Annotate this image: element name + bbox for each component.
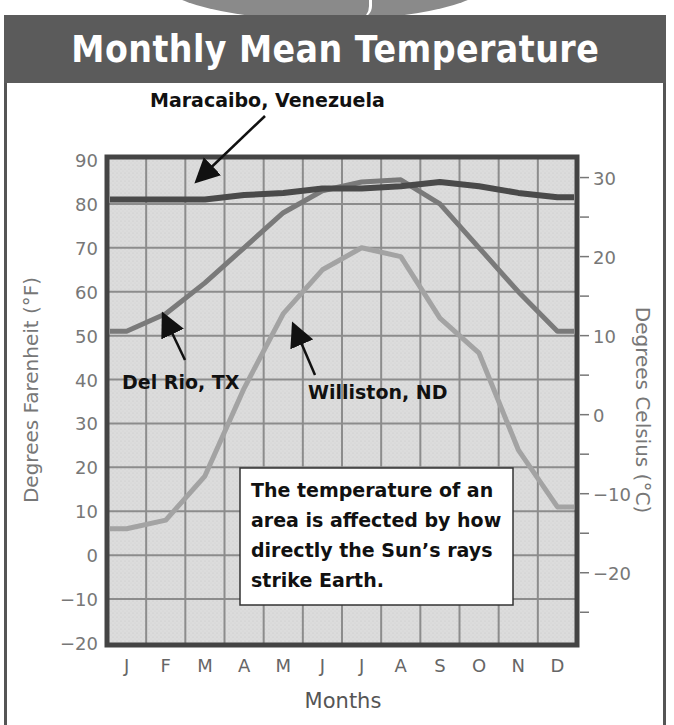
y-tick-left: 80 bbox=[75, 194, 98, 215]
y-tick-left: 30 bbox=[75, 413, 98, 434]
y-tick-left: −20 bbox=[60, 633, 98, 654]
callout-line-4: strike Earth. bbox=[251, 569, 384, 591]
y-tick-left: 0 bbox=[87, 545, 98, 566]
label-del-rio: Del Rio, TX bbox=[122, 371, 240, 393]
x-tick-month: M bbox=[275, 655, 291, 676]
y-tick-right: −20 bbox=[593, 563, 631, 584]
x-tick-month: J bbox=[123, 655, 129, 676]
callout-line-1: The temperature of an bbox=[251, 479, 493, 501]
y-axis-right-ticks: 3020100−10−20 bbox=[580, 168, 631, 613]
y-axis-left-ticks: 9080706050403020100−10−20 bbox=[60, 150, 98, 654]
x-tick-month: J bbox=[358, 655, 364, 676]
y-tick-left: 60 bbox=[75, 282, 98, 303]
x-tick-month: N bbox=[512, 655, 525, 676]
y-tick-right: 30 bbox=[593, 168, 616, 189]
y-tick-left: 10 bbox=[75, 501, 98, 522]
y-tick-left: −10 bbox=[60, 589, 98, 610]
x-tick-month: A bbox=[395, 655, 408, 676]
y-tick-right: 0 bbox=[593, 405, 604, 426]
y-tick-left: 40 bbox=[75, 370, 98, 391]
y-tick-left: 20 bbox=[75, 457, 98, 478]
y-tick-right: −10 bbox=[593, 484, 631, 505]
x-tick-month: O bbox=[472, 655, 486, 676]
x-axis-ticks: JFMAMJJASOND bbox=[123, 655, 564, 676]
callout-line-2: area is affected by how bbox=[251, 509, 501, 531]
x-tick-month: S bbox=[434, 655, 445, 676]
y-tick-left: 90 bbox=[75, 150, 98, 171]
x-tick-month: A bbox=[238, 655, 251, 676]
label-maracaibo: Maracaibo, Venezuela bbox=[150, 89, 385, 111]
x-tick-month: M bbox=[197, 655, 213, 676]
y-tick-left: 50 bbox=[75, 326, 98, 347]
y-tick-right: 10 bbox=[593, 326, 616, 347]
x-tick-month: J bbox=[319, 655, 325, 676]
y-axis-right-label: Degrees Celsius (°C) bbox=[631, 307, 655, 513]
y-tick-left: 70 bbox=[75, 238, 98, 259]
label-williston: Williston, ND bbox=[308, 381, 448, 403]
y-tick-right: 20 bbox=[593, 247, 616, 268]
callout-line-3: directly the Sun’s rays bbox=[251, 539, 493, 561]
x-tick-month: F bbox=[161, 655, 171, 676]
y-axis-left-label: Degrees Farenheit (°F) bbox=[19, 277, 43, 503]
x-axis-label: Months bbox=[305, 689, 382, 713]
x-tick-month: D bbox=[550, 655, 564, 676]
